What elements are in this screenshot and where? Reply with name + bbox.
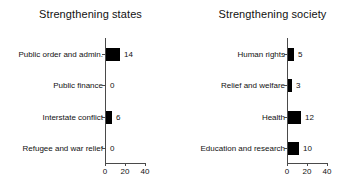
plot-area-left: 0 20 40 Public order and admin. 14 Publi… [0, 0, 181, 185]
xtick-40-left [145, 163, 146, 166]
xtick-label-0-right: 0 [285, 167, 289, 176]
xtick-label-40-left: 40 [141, 167, 150, 176]
figure: Strengthening states 0 20 40 Public orde… [0, 0, 363, 185]
xtick-label-20-left: 20 [121, 167, 130, 176]
xtick-label-20-right: 20 [303, 167, 312, 176]
bar [106, 111, 112, 124]
bar-row: Health 12 [182, 110, 363, 126]
xtick-40-right [327, 163, 328, 166]
xtick-0-left [105, 163, 106, 166]
category-tick [284, 148, 287, 149]
xtick-label-0-left: 0 [103, 167, 107, 176]
category-tick [284, 117, 287, 118]
category-tick [284, 54, 287, 55]
bar-value-label: 14 [124, 50, 133, 59]
bar [288, 142, 299, 155]
bar-value-label: 12 [305, 113, 314, 122]
bar-value-label: 6 [116, 113, 120, 122]
bar [288, 79, 292, 92]
category-label: Human rights [237, 50, 285, 59]
category-tick [102, 117, 105, 118]
bar-value-label: 5 [298, 50, 302, 59]
xtick-label-40-right: 40 [323, 167, 332, 176]
bar-row: Interstate conflict 6 [0, 110, 181, 126]
bar [288, 111, 301, 124]
xtick-20-right [307, 163, 308, 166]
category-tick [102, 54, 105, 55]
category-label: Interstate conflict [43, 113, 103, 122]
bar-row: Public order and admin. 14 [0, 47, 181, 63]
bar-row: Public finance 0 [0, 78, 181, 94]
plot-area-right: 0 20 40 Human rights 5 Relief and welfar… [182, 0, 363, 185]
bar-row: Relief and welfare 3 [182, 78, 363, 94]
bar-row: Refugee and war relief 0 [0, 141, 181, 157]
category-tick [102, 148, 105, 149]
xtick-20-left [125, 163, 126, 166]
bar [288, 48, 294, 61]
category-tick [102, 85, 105, 86]
xtick-0-right [287, 163, 288, 166]
chart-panel-strengthening-society: Strengthening society 0 20 40 Human righ… [182, 0, 363, 185]
bar [106, 48, 120, 61]
category-label: Relief and welfare [221, 81, 285, 90]
bar-value-label: 10 [303, 144, 312, 153]
bar-value-label: 0 [110, 144, 114, 153]
category-label: Education and research [201, 144, 286, 153]
category-label: Refugee and war relief [23, 144, 104, 153]
bar-value-label: 0 [110, 81, 114, 90]
bar-row: Education and research 10 [182, 141, 363, 157]
category-tick [284, 85, 287, 86]
category-label: Health [262, 113, 285, 122]
chart-panel-strengthening-states: Strengthening states 0 20 40 Public orde… [0, 0, 181, 185]
bar-value-label: 3 [296, 81, 300, 90]
category-label: Public finance [53, 81, 103, 90]
bar-row: Human rights 5 [182, 47, 363, 63]
category-label: Public order and admin. [19, 50, 104, 59]
